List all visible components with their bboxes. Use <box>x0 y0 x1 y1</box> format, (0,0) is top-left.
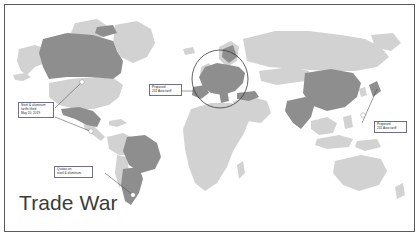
callout-european-union[interactable]: Proposed 232 Auto tariff <box>149 84 182 96</box>
callout-na-line-3: May 20, 2019 <box>21 112 51 116</box>
marker-argentina <box>131 193 136 198</box>
callout-jp-line-2: 232 Auto tariff <box>377 127 404 131</box>
map-stage: Steel & aluminum tariffs lifted May 20, … <box>5 5 413 230</box>
callout-sa-line-2: steel & aluminum <box>57 172 90 176</box>
callout-north-america[interactable]: Steel & aluminum tariffs lifted May 20, … <box>18 102 54 118</box>
marker-mexico <box>89 129 94 134</box>
figure-frame: Steel & aluminum tariffs lifted May 20, … <box>4 4 415 232</box>
figure-title: Trade War <box>19 191 118 215</box>
marker-japan <box>361 113 366 118</box>
marker-canada <box>80 80 85 85</box>
callout-eu-line-2: 232 Auto tariff <box>152 90 179 94</box>
callout-south-america[interactable]: Quotas on steel & aluminum <box>54 166 93 178</box>
callout-japan[interactable]: Proposed 232 Auto tariff <box>374 121 407 133</box>
